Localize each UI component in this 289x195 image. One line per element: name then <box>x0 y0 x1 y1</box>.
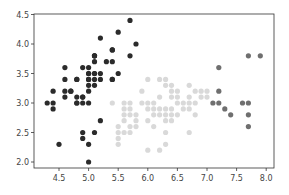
data-point <box>74 95 79 100</box>
data-point <box>122 106 127 111</box>
data-point <box>187 95 192 100</box>
data-point <box>169 106 174 111</box>
data-point <box>51 100 56 105</box>
data-point <box>151 124 156 129</box>
data-point <box>116 30 121 35</box>
data-point <box>122 118 127 123</box>
y-axis: 2.02.53.03.54.04.5 <box>16 11 34 168</box>
scatter-chart: 4.55.05.56.06.57.07.58.0 2.02.53.03.54.0… <box>0 0 289 195</box>
data-point <box>92 130 97 135</box>
data-point <box>169 95 174 100</box>
data-point <box>51 89 56 94</box>
data-point <box>62 95 67 100</box>
data-point <box>216 100 221 105</box>
data-point <box>163 142 168 147</box>
data-point <box>110 100 115 105</box>
data-point <box>157 148 162 153</box>
data-point <box>98 71 103 76</box>
data-point <box>193 100 198 105</box>
data-point <box>127 53 132 58</box>
data-point <box>86 77 91 82</box>
data-point <box>86 65 91 70</box>
x-tick-label: 6.5 <box>171 174 184 183</box>
data-point <box>133 118 138 123</box>
data-point <box>246 124 251 129</box>
data-point <box>175 95 180 100</box>
data-point <box>80 65 85 70</box>
data-point <box>193 89 198 94</box>
data-point <box>92 53 97 58</box>
data-point <box>181 106 186 111</box>
data-point <box>175 100 180 105</box>
data-point <box>62 89 67 94</box>
data-point <box>68 89 73 94</box>
data-point <box>74 77 79 82</box>
data-point <box>116 124 121 129</box>
data-point <box>169 89 174 94</box>
data-point <box>175 112 180 117</box>
data-point <box>222 106 227 111</box>
data-point <box>199 95 204 100</box>
data-point <box>246 100 251 105</box>
data-point <box>56 142 61 147</box>
y-tick-label: 4.0 <box>16 40 29 49</box>
data-point <box>116 71 121 76</box>
x-axis: 4.55.05.56.06.57.07.58.0 <box>53 168 273 183</box>
y-tick-label: 3.0 <box>16 99 29 108</box>
data-point <box>45 100 50 105</box>
x-tick-label: 7.5 <box>230 174 243 183</box>
data-point <box>240 100 245 105</box>
data-point <box>228 112 233 117</box>
data-point <box>163 130 168 135</box>
data-point <box>258 53 263 58</box>
data-point <box>80 130 85 135</box>
data-point <box>246 112 251 117</box>
data-point <box>193 112 198 117</box>
data-point <box>133 41 138 46</box>
data-point <box>151 106 156 111</box>
data-point <box>92 83 97 88</box>
data-point <box>110 59 115 64</box>
data-point <box>151 112 156 117</box>
data-point <box>80 95 85 100</box>
data-point <box>139 89 144 94</box>
data-point <box>145 77 150 82</box>
data-point <box>62 65 67 70</box>
x-tick-label: 7.0 <box>201 174 214 183</box>
data-point <box>169 83 174 88</box>
data-point <box>204 89 209 94</box>
x-tick-label: 6.0 <box>141 174 154 183</box>
data-point <box>163 83 168 88</box>
data-point <box>139 100 144 105</box>
data-point <box>246 53 251 58</box>
data-point <box>74 100 79 105</box>
data-point <box>122 100 127 105</box>
data-point <box>157 106 162 111</box>
data-point <box>210 100 215 105</box>
data-point <box>145 106 150 111</box>
x-tick-label: 4.5 <box>53 174 66 183</box>
data-point <box>145 100 150 105</box>
data-point <box>204 95 209 100</box>
data-point <box>157 95 162 100</box>
data-point <box>187 83 192 88</box>
data-point <box>116 142 121 147</box>
data-point <box>133 124 138 129</box>
data-point <box>86 159 91 164</box>
data-point <box>216 65 221 70</box>
x-tick-label: 5.5 <box>112 174 125 183</box>
data-point <box>86 100 91 105</box>
data-point <box>169 118 174 123</box>
data-point <box>98 77 103 82</box>
data-point <box>92 77 97 82</box>
data-point <box>92 59 97 64</box>
data-point <box>86 89 91 94</box>
data-point <box>127 18 132 23</box>
data-point <box>122 130 127 135</box>
data-point <box>98 118 103 123</box>
y-tick-label: 2.0 <box>16 158 29 167</box>
data-point <box>127 130 132 135</box>
data-point <box>127 112 132 117</box>
data-point <box>157 112 162 117</box>
data-point <box>187 130 192 135</box>
